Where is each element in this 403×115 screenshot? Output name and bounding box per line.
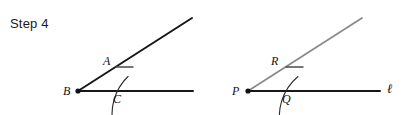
vertex-point-B	[75, 88, 80, 93]
vertex-point-P	[245, 88, 250, 93]
point-label-B: B	[63, 84, 71, 98]
geometry-figure-group: B A C P R Q ℓ	[0, 0, 403, 115]
point-label-C: C	[113, 92, 122, 106]
original-angle-figure: B A C	[63, 18, 193, 115]
point-label-R: R	[270, 54, 279, 68]
line-label-ell: ℓ	[387, 81, 393, 96]
ray-BA-slanted	[78, 18, 192, 91]
point-label-Q: Q	[282, 92, 291, 106]
point-label-A: A	[102, 54, 111, 68]
ray-PR-slanted	[248, 18, 362, 91]
diagram-canvas: Step 4 B A C P R Q ℓ	[0, 0, 403, 115]
copied-angle-figure: P R Q ℓ	[231, 18, 393, 115]
point-label-P: P	[231, 84, 240, 98]
